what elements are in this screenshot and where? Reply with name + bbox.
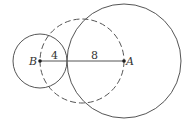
point-b: [38, 59, 42, 63]
label-b: B: [28, 55, 37, 68]
label-4: 4: [51, 49, 58, 62]
label-a: A: [125, 55, 134, 68]
label-8: 8: [91, 49, 98, 62]
geometry-diagram: B A 4 8: [0, 0, 188, 125]
